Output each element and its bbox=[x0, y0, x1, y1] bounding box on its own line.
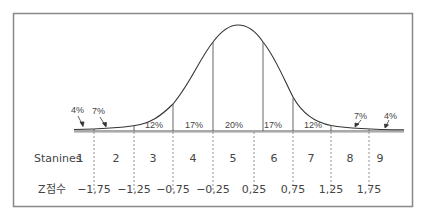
pct-3: 12% bbox=[145, 120, 163, 130]
pct-4: 17% bbox=[185, 120, 203, 130]
stanine-4: 4 bbox=[190, 152, 197, 165]
stanines-row-label: Stanines bbox=[34, 152, 82, 165]
stanine-9: 9 bbox=[377, 152, 384, 165]
pct-1: 4% bbox=[71, 105, 84, 115]
z-row-label: Z점수 bbox=[38, 183, 66, 196]
stanine-5: 5 bbox=[230, 152, 237, 165]
pct-5: 20% bbox=[225, 120, 243, 130]
pct-6: 17% bbox=[264, 120, 282, 130]
z-boundary-1: −1,75 bbox=[77, 183, 111, 196]
z-boundary-6: 0,75 bbox=[281, 183, 306, 196]
z-boundary-3: −0,75 bbox=[156, 183, 190, 196]
pct-2: 7% bbox=[92, 106, 105, 116]
z-boundary-4: −0,25 bbox=[196, 183, 230, 196]
stanine-3: 3 bbox=[150, 152, 157, 165]
z-boundary-5: 0,25 bbox=[242, 183, 267, 196]
stanine-2: 2 bbox=[113, 152, 120, 165]
pct-9: 4% bbox=[384, 111, 397, 121]
stanine-6: 6 bbox=[271, 152, 278, 165]
z-boundary-7: 1,25 bbox=[319, 183, 344, 196]
stanine-1: 1 bbox=[77, 152, 84, 165]
section-lines bbox=[94, 42, 369, 131]
pct-8: 7% bbox=[354, 111, 367, 121]
z-boundary-8: 1,75 bbox=[357, 183, 382, 196]
z-boundary-2: −1,25 bbox=[117, 183, 151, 196]
pct-7: 12% bbox=[304, 120, 322, 130]
stanine-7: 7 bbox=[308, 152, 315, 165]
stanine-8: 8 bbox=[347, 152, 354, 165]
stanine-chart: 4% 7% 12% 17% 20% 17% 12% 7% 4% Stanines… bbox=[0, 0, 424, 217]
